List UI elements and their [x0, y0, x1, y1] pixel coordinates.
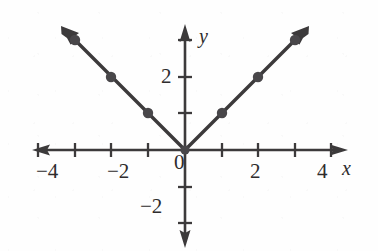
y-axis-group [178, 24, 192, 248]
data-point-neg1-1 [143, 108, 153, 118]
x-tick-label-neg2: −2 [107, 161, 129, 182]
y-tick-label-pos2: 2 [161, 66, 172, 87]
y-tick-label-neg2: −2 [140, 196, 162, 217]
data-point-pos3-3 [290, 35, 300, 45]
curve-left-branch [70, 35, 185, 150]
x-tick-label-pos4: 4 [317, 161, 328, 182]
curve-right-branch [185, 35, 300, 150]
absolute-value-graph-figure: −4 −2 0 2 4 2 −2 x y [0, 0, 378, 251]
x-tick-label-pos2: 2 [250, 161, 261, 182]
data-point-pos1-1 [217, 108, 227, 118]
y-axis-label: y [199, 26, 208, 46]
data-point-pos2-2 [253, 72, 263, 82]
data-point-neg3-3 [70, 35, 80, 45]
x-axis-label: x [342, 158, 351, 178]
data-point-neg2-2 [106, 72, 116, 82]
coordinate-plane-svg [0, 0, 378, 251]
origin-label: 0 [174, 152, 185, 173]
x-tick-label-neg4: −4 [36, 161, 58, 182]
